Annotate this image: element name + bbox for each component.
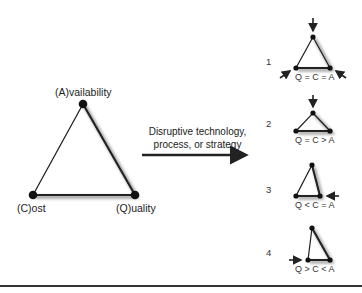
scenario-1-triangle — [280, 18, 346, 78]
scenario-2-number: 2 — [266, 118, 271, 129]
arrow-up-left-icon — [336, 71, 346, 78]
label-availability: (A)vailability — [55, 86, 112, 98]
caption-line-2: process, or strategy — [140, 138, 255, 151]
scenario-3-triangle — [293, 162, 339, 198]
scenario-3-number: 3 — [266, 184, 271, 195]
main-triangle — [29, 100, 140, 200]
vertex-cost — [29, 191, 38, 200]
scenario-2-relation: Q = C > A — [295, 135, 335, 145]
label-quality: (Q)uality — [116, 202, 156, 214]
scenario-2-triangle — [293, 95, 332, 134]
scenario-4-triangle — [289, 225, 333, 262]
transition-arrow — [142, 155, 244, 157]
scenario-1-number: 1 — [266, 56, 271, 67]
label-cost: (C)ost — [17, 202, 46, 214]
vertex-quality — [131, 191, 140, 200]
scenario-4-number: 4 — [266, 247, 271, 258]
arrow-up-right-icon — [280, 71, 290, 78]
transition-caption: Disruptive technology, process, or strat… — [140, 125, 255, 151]
scenario-1-relation: Q = C = A — [295, 72, 335, 82]
scenario-3-relation: Q < C = A — [295, 200, 335, 210]
vertex-availability — [79, 100, 88, 109]
caption-line-1: Disruptive technology, — [140, 125, 255, 138]
scenario-4-relation: Q > C < A — [295, 264, 335, 274]
